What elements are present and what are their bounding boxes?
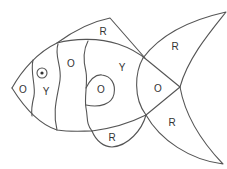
label-stripe-2: O: [67, 58, 75, 69]
tail-upper-outline: [143, 12, 226, 87]
label-bottom-fin: R: [108, 132, 115, 143]
label-body-middle: Y: [119, 62, 126, 73]
stripe-2-outline: [55, 44, 60, 130]
stripe-1-outline: [32, 60, 35, 116]
pupil-icon: [40, 71, 43, 74]
label-tail-lower: R: [168, 117, 175, 128]
tail-front-curve: [137, 58, 146, 115]
top-fin-outline: [57, 18, 145, 58]
body-top-outline: [12, 39, 180, 88]
fish-drawing: O Y O Y O O R R R R: [0, 0, 227, 169]
body-bottom-outline: [12, 87, 180, 131]
label-tail-upper: R: [171, 41, 178, 52]
label-rear-body: O: [154, 83, 162, 94]
label-top-fin: R: [99, 26, 106, 37]
label-stripe-1: Y: [43, 86, 50, 97]
fish-coloring-diagram: O Y O Y O O R R R R: [0, 0, 227, 169]
label-head: O: [19, 84, 27, 95]
tail-lower-outline: [146, 87, 223, 164]
label-spot: O: [97, 84, 105, 95]
stripe-3-outline: [84, 41, 92, 131]
bottom-fin-outline: [92, 115, 146, 147]
